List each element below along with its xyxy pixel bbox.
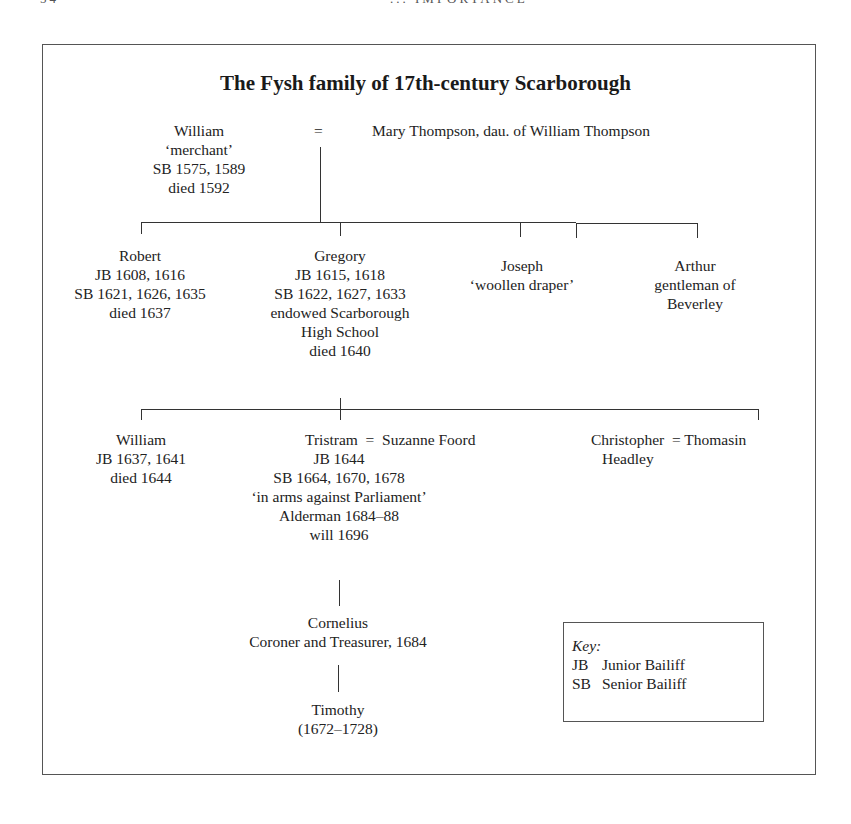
marriage-symbol: = — [314, 121, 323, 140]
person-name: Timothy — [298, 700, 378, 719]
key-meaning: Senior Bailiff — [602, 675, 687, 692]
sibling-line-ext — [576, 223, 698, 224]
child-drop-line — [141, 409, 142, 420]
key-meaning: Junior Bailiff — [602, 656, 685, 673]
child-drop-line — [576, 223, 577, 238]
person-arthur: Arthur gentleman of Beverley — [654, 256, 735, 313]
page-number: 54 — [40, 0, 59, 7]
person-name: Tristram — [305, 431, 358, 448]
diagram-title: The Fysh family of 17th-century Scarboro… — [0, 71, 851, 96]
child-drop-line — [697, 223, 698, 238]
person-name: Robert — [74, 246, 205, 265]
person-detail: Beverley — [654, 294, 735, 313]
spouse-thomasin: Thomasin — [684, 431, 746, 448]
spouse-thomasin-surname: Headley — [602, 449, 654, 468]
person-name: Cornelius — [249, 613, 427, 632]
key-entry: JBJunior Bailiff — [572, 655, 763, 674]
person-detail: ‘in arms against Parliament’ — [251, 487, 426, 506]
person-name: William — [96, 430, 186, 449]
person-gregory: Gregory JB 1615, 1618 SB 1622, 1627, 163… — [270, 246, 409, 360]
child-drop-line — [758, 409, 759, 420]
person-name: Gregory — [270, 246, 409, 265]
person-detail: SB 1621, 1626, 1635 — [74, 284, 205, 303]
person-detail: JB 1637, 1641 — [96, 449, 186, 468]
person-detail: will 1696 — [251, 525, 426, 544]
marriage-symbol: = — [366, 431, 375, 448]
person-tristram-name: Tristram = Suzanne Foord — [305, 430, 476, 449]
spouse-mary-thompson: Mary Thompson, dau. of William Thompson — [372, 121, 650, 140]
person-detail: Coroner and Treasurer, 1684 — [249, 632, 427, 651]
marriage-symbol: = — [672, 431, 681, 448]
person-name: Christopher — [591, 431, 664, 448]
descent-line — [338, 665, 339, 692]
person-timothy: Timothy (1672–1728) — [298, 700, 378, 738]
person-cornelius: Cornelius Coroner and Treasurer, 1684 — [249, 613, 427, 651]
descent-line — [339, 580, 340, 606]
person-detail: High School — [270, 322, 409, 341]
key-title: Key: — [572, 636, 763, 655]
key-box: Key: JBJunior Bailiff SBSenior Bailiff — [563, 622, 764, 722]
person-name: Arthur — [654, 256, 735, 275]
spouse-suzanne-foord: Suzanne Foord — [382, 431, 475, 448]
person-detail: SB 1575, 1589 — [153, 159, 246, 178]
person-robert: Robert JB 1608, 1616 SB 1621, 1626, 1635… — [74, 246, 205, 322]
person-detail: ‘woollen draper’ — [470, 275, 574, 294]
key-abbr: JB — [572, 655, 602, 674]
person-detail: died 1592 — [153, 178, 246, 197]
person-name: William — [153, 121, 246, 140]
sibling-line — [141, 222, 576, 223]
person-detail: endowed Scarborough — [270, 303, 409, 322]
person-detail: gentleman of — [654, 275, 735, 294]
person-detail: Alderman 1684–88 — [251, 506, 426, 525]
key-abbr: SB — [572, 674, 602, 693]
person-joseph: Joseph ‘woollen draper’ — [470, 256, 574, 294]
person-detail: died 1644 — [96, 468, 186, 487]
child-drop-line — [520, 223, 521, 237]
person-tristram-details: JB 1644 SB 1664, 1670, 1678 ‘in arms aga… — [251, 449, 426, 544]
person-detail: JB 1615, 1618 — [270, 265, 409, 284]
sibling-line — [141, 409, 758, 410]
person-william-senior: William ‘merchant’ SB 1575, 1589 died 15… — [153, 121, 246, 197]
person-detail: died 1637 — [74, 303, 205, 322]
person-detail: SB 1622, 1627, 1633 — [270, 284, 409, 303]
person-detail: JB 1644 — [251, 449, 426, 468]
person-detail: JB 1608, 1616 — [74, 265, 205, 284]
child-drop-line — [141, 222, 142, 234]
person-detail: died 1640 — [270, 341, 409, 360]
running-head: ... IMPORTANCE — [390, 0, 528, 7]
person-christopher: Christopher = Thomasin — [591, 430, 746, 449]
person-william-junior: William JB 1637, 1641 died 1644 — [96, 430, 186, 487]
person-detail: ‘merchant’ — [153, 140, 246, 159]
child-drop-line — [340, 222, 341, 236]
person-name: Joseph — [470, 256, 574, 275]
key-entry: SBSenior Bailiff — [572, 674, 763, 693]
descent-line — [320, 147, 321, 222]
person-detail: (1672–1728) — [298, 719, 378, 738]
person-detail: SB 1664, 1670, 1678 — [251, 468, 426, 487]
